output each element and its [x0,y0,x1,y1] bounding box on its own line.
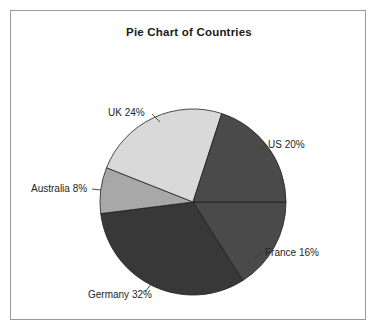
pie-label-uk: UK 24% [108,108,145,118]
pie-chart-graphic [0,0,378,334]
pie-label-france: France 16% [265,248,319,258]
pie-label-australia: Australia 8% [31,184,87,194]
chart-screenshot: Pie Chart of Countries US 20% France 16%… [0,0,378,334]
leader-line-australia [92,189,101,190]
pie-label-germany: Germany 32% [88,290,152,300]
pie-label-us: US 20% [268,140,305,150]
